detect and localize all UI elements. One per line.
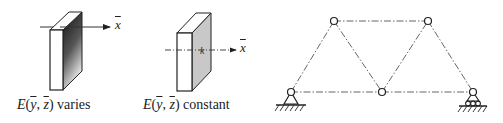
slab-front-face — [50, 30, 63, 90]
member-CD — [382, 21, 428, 92]
ground-hatch-icon — [275, 105, 304, 111]
truss-joints — [288, 18, 477, 96]
centroid-mark: k — [200, 45, 205, 56]
slab-front-face — [177, 33, 192, 91]
ground-hatch-icon — [458, 106, 487, 112]
joint-E — [470, 89, 477, 96]
member-BC — [334, 21, 382, 92]
joint-C — [379, 89, 386, 96]
slab-varies — [40, 12, 110, 90]
joint-B — [331, 18, 338, 25]
member-DE — [428, 21, 473, 92]
member-AB — [291, 21, 334, 92]
truss — [291, 21, 473, 92]
x-axis-label: x — [115, 17, 121, 33]
roller-wheel-icon — [466, 101, 471, 106]
x-axis-label: x — [240, 40, 246, 56]
joint-A — [288, 89, 295, 96]
caption-constant: E(y, z) constant — [143, 97, 230, 113]
joint-D — [425, 18, 432, 25]
roller-wheel-icon — [471, 101, 476, 106]
roller-wheel-icon — [476, 101, 481, 106]
caption-varies: E(y, z) varies — [17, 97, 91, 113]
slab-constant: k — [165, 13, 236, 91]
